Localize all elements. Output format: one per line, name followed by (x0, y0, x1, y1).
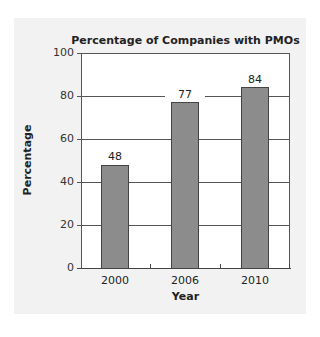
ytick-0: 0 (34, 261, 74, 274)
ytick-100: 100 (34, 46, 74, 59)
bar-label-2000: 48 (95, 151, 135, 163)
xtick-mark (150, 264, 151, 269)
y-axis-title: Percentage (21, 125, 34, 196)
bar-2010 (241, 87, 269, 269)
xlabel-2010: 2010 (230, 274, 280, 287)
bar-label-2006: 77 (165, 89, 205, 101)
bar-2006 (171, 102, 199, 269)
ytick-80: 80 (34, 89, 74, 102)
xlabel-2006: 2006 (160, 274, 210, 287)
ytick-60: 60 (34, 132, 74, 145)
ytick-40: 40 (34, 175, 74, 188)
bar-label-2010: 84 (235, 74, 275, 86)
ytick-mark-100 (77, 53, 81, 54)
ytick-20: 20 (34, 218, 74, 231)
x-axis-title: Year (81, 290, 290, 303)
xtick-mark (220, 264, 221, 269)
bar-2000 (101, 165, 129, 269)
xtick-mark (289, 264, 290, 269)
xlabel-2000: 2000 (90, 274, 140, 287)
